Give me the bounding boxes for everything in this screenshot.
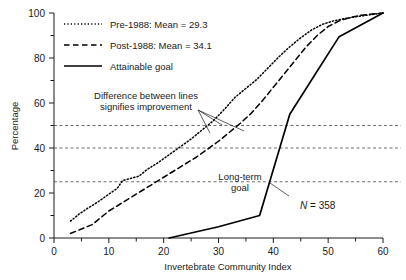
x-axis-title: Invertebrate Community Index: [164, 261, 292, 272]
x-tick-label: 60: [377, 246, 389, 257]
y-tick-label: 60: [34, 98, 46, 109]
y-tick-label: 80: [34, 53, 46, 64]
x-tick-label: 30: [213, 246, 225, 257]
long-term-goal-annotation-line2: goal: [231, 182, 249, 193]
x-tick-label: 50: [323, 246, 335, 257]
y-tick-label: 20: [34, 188, 46, 199]
difference-annotation-line1: Difference between lines: [94, 90, 198, 101]
y-axis-title: Percentage: [9, 102, 20, 151]
line-chart: 020406080100 0102030405060 Percentage In…: [0, 0, 406, 280]
x-tick-label: 0: [51, 246, 57, 257]
sample-size-annotation: N = 358: [300, 200, 336, 211]
y-tick-label: 100: [28, 8, 45, 19]
y-tick-label: 0: [39, 233, 45, 244]
x-tick-label: 40: [268, 246, 280, 257]
chart-container: 020406080100 0102030405060 Percentage In…: [0, 0, 406, 280]
legend-label: Post-1988: Mean = 34.1: [110, 40, 212, 51]
difference-annotation-line2: signifies improvement: [100, 101, 192, 112]
sample-size-value: = 358: [307, 200, 336, 211]
long-term-goal-annotation-line1: Long-term: [218, 171, 261, 182]
x-tick-label: 10: [103, 246, 115, 257]
legend-label: Pre-1988: Mean = 29.3: [110, 19, 207, 30]
y-tick-label: 40: [34, 143, 46, 154]
legend-label: Attainable goal: [110, 61, 173, 72]
x-tick-label: 20: [158, 246, 170, 257]
